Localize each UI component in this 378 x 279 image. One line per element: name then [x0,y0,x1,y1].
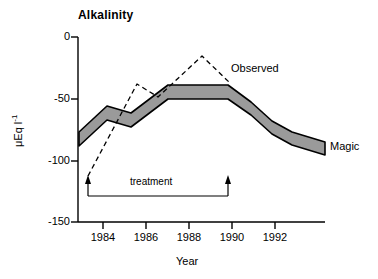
magic-band-fill [79,85,325,155]
treatment-arrow-right-head [225,175,231,184]
plot-area [0,0,378,279]
treatment-bracket [85,175,231,196]
treatment-arrow-left-head [85,175,91,184]
magic-band-series [79,85,325,155]
alkalinity-chart-figure: Alkalinity μEq l-1 0 -50 -100 -150 1984 … [0,0,378,279]
